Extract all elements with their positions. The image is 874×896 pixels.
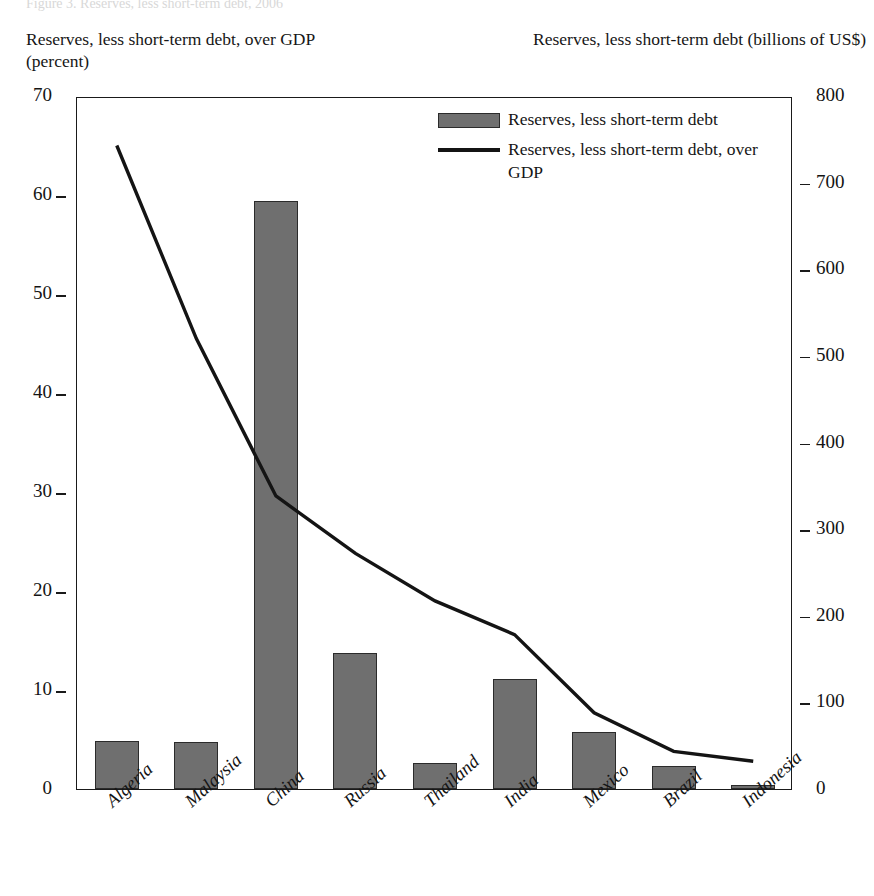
legend-item-line: Reserves, less short-term debt, over GDP xyxy=(430,138,790,184)
left-tick-mark-30 xyxy=(56,493,66,495)
legend-item-bar: Reserves, less short-term debt xyxy=(430,108,790,132)
left-tick-mark-50 xyxy=(56,295,66,297)
right-tick-mark-300 xyxy=(800,530,810,532)
left-tick-label-50: 50 xyxy=(33,282,52,304)
right-axis-ticks: 0100200300400500600700800 xyxy=(800,97,870,790)
right-tick-mark-600 xyxy=(800,270,810,272)
plot-area xyxy=(76,97,792,790)
left-tick-mark-40 xyxy=(56,394,66,396)
right-tick-label-300: 300 xyxy=(816,517,845,539)
left-tick-mark-20 xyxy=(56,592,66,594)
legend-item-bar-label: Reserves, less short-term debt xyxy=(508,108,718,131)
right-tick-label-600: 600 xyxy=(816,257,845,279)
right-tick-label-800: 800 xyxy=(816,84,845,106)
left-axis-caption: Reserves, less short-term debt, over GDP… xyxy=(26,28,346,73)
left-tick-label-70: 70 xyxy=(33,84,52,106)
legend-line-swatch-icon xyxy=(430,138,508,162)
left-tick-label-40: 40 xyxy=(33,381,52,403)
right-tick-label-700: 700 xyxy=(816,171,845,193)
left-tick-mark-60 xyxy=(56,196,66,198)
right-tick-label-400: 400 xyxy=(816,431,845,453)
right-tick-label-0: 0 xyxy=(816,777,826,799)
chart-figure: Figure 3. Reserves, less short-term debt… xyxy=(0,0,874,896)
left-tick-label-60: 60 xyxy=(33,183,52,205)
right-tick-mark-500 xyxy=(800,357,810,359)
line-series xyxy=(77,98,793,791)
left-tick-label-30: 30 xyxy=(33,480,52,502)
plot-inner xyxy=(77,98,791,789)
chart-legend: Reserves, less short-term debt Reserves,… xyxy=(430,108,790,190)
left-tick-mark-10 xyxy=(56,691,66,693)
category-axis-labels: AlgeriaMalaysiaChinaRussiaThailandIndiaM… xyxy=(76,792,792,896)
left-tick-label-20: 20 xyxy=(33,579,52,601)
figure-title-cropped: Figure 3. Reserves, less short-term debt… xyxy=(26,0,586,12)
left-tick-label-10: 10 xyxy=(33,678,52,700)
legend-bar-swatch-icon xyxy=(430,108,508,132)
right-axis-caption: Reserves, less short-term debt (billions… xyxy=(526,28,866,50)
right-tick-mark-200 xyxy=(800,617,810,619)
right-tick-mark-400 xyxy=(800,444,810,446)
right-tick-mark-700 xyxy=(800,184,810,186)
left-tick-label-0: 0 xyxy=(43,777,53,799)
right-tick-label-200: 200 xyxy=(816,604,845,626)
legend-item-line-label: Reserves, less short-term debt, over GDP xyxy=(508,138,790,184)
right-tick-label-500: 500 xyxy=(816,344,845,366)
left-axis-ticks: 010203040506070 xyxy=(0,97,66,790)
line-series-path xyxy=(117,146,753,762)
right-tick-mark-100 xyxy=(800,703,810,705)
right-tick-label-100: 100 xyxy=(816,690,845,712)
